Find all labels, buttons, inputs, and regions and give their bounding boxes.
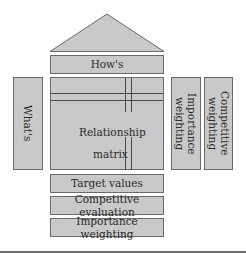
competitive-weighting-side-label: Competitive weighting xyxy=(206,91,230,156)
target-values-box: Target values xyxy=(50,174,164,193)
matrix-hline-1 xyxy=(51,93,163,94)
matrix-hline-2 xyxy=(51,100,163,101)
importance-weighting-bottom-label: Importance weighting xyxy=(51,215,163,239)
matrix-vline-1-top xyxy=(125,78,126,112)
competitive-weighting-side-box: Competitive weighting xyxy=(204,77,233,170)
importance-weighting-side-box: Importance weighting xyxy=(171,77,201,170)
hows-label: How's xyxy=(91,58,124,70)
competitive-evaluation-label: Competitive evaluation xyxy=(51,193,163,217)
matrix-label-line2: matrix xyxy=(93,148,128,160)
competitive-evaluation-box: Competitive evaluation xyxy=(50,196,164,215)
hows-box: How's xyxy=(50,55,164,74)
whats-label: What's xyxy=(22,105,34,141)
importance-weighting-bottom-box: Importance weighting xyxy=(50,218,164,237)
whats-box: What's xyxy=(13,77,43,170)
matrix-vline-2-bottom xyxy=(131,137,132,170)
relationship-matrix: Relationship matrix xyxy=(50,77,164,170)
matrix-label-line1: Relationship xyxy=(79,126,146,138)
roof-correlation-matrix xyxy=(0,0,246,60)
matrix-vline-2-top xyxy=(131,78,132,112)
target-values-label: Target values xyxy=(71,177,143,189)
importance-weighting-side-label: Importance weighting xyxy=(174,93,198,155)
